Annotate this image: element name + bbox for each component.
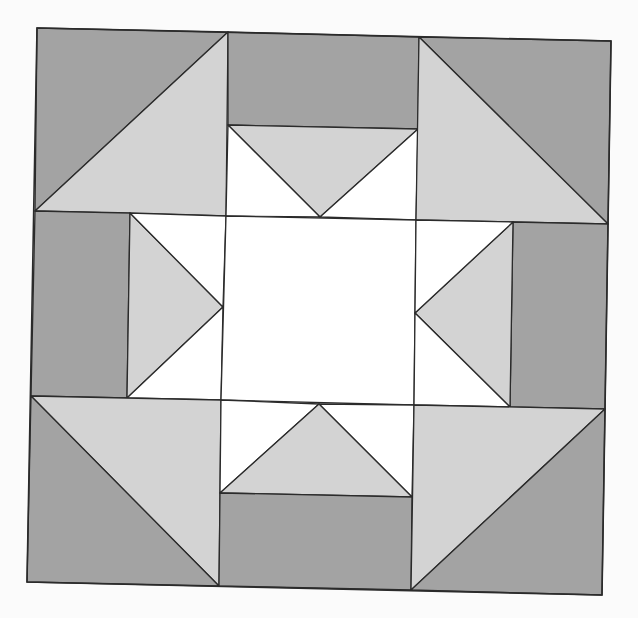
right-edge-dark: [510, 222, 608, 409]
left-edge-dark: [31, 211, 130, 398]
quilt-block-diagram: [0, 0, 638, 618]
center-square: [221, 216, 416, 405]
bottom-edge-dark: [219, 493, 412, 590]
top-edge-dark: [228, 32, 419, 129]
